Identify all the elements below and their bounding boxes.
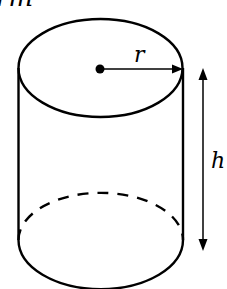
height-label: h [211,148,225,173]
radius-label: r [134,42,146,67]
cropped-top-text: rm [0,0,33,12]
height-arrowhead-down-icon [199,239,208,251]
cylinder-diagram: rm r h [0,0,227,289]
height-arrowhead-up-icon [199,68,208,80]
bottom-ellipse-front-arc [19,240,184,289]
bottom-ellipse-hidden-arc [19,193,184,240]
